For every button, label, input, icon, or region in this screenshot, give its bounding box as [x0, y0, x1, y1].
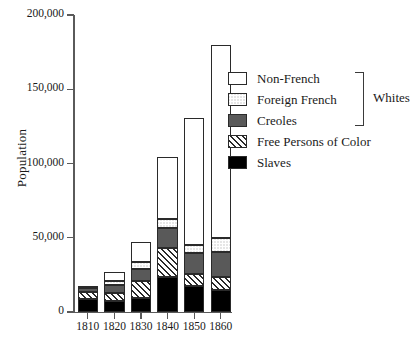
y-axis-tick-mark	[67, 163, 74, 164]
legend-item-creoles[interactable]: Creoles	[228, 110, 371, 131]
bar-segment-non-french	[157, 157, 178, 219]
bar-segment-free-persons-of-color	[131, 281, 152, 298]
bar-segment-slaves	[104, 301, 125, 312]
legend-item-label: Foreign French	[257, 92, 337, 108]
bar-segment-non-french	[184, 118, 205, 245]
bar-segment-creoles	[157, 228, 178, 248]
y-axis-tick-mark	[67, 14, 74, 15]
bar-segment-non-french	[104, 272, 125, 281]
legend-item-label: Creoles	[257, 113, 297, 129]
chart-legend: Non-FrenchForeign FrenchCreolesFree Pers…	[228, 68, 371, 173]
whites-group-label: Whites	[373, 90, 410, 106]
bar-segment-foreign-french	[211, 238, 232, 251]
legend-item-non-french[interactable]: Non-French	[228, 68, 371, 89]
bar-1810	[78, 286, 99, 312]
y-axis-tick-mark	[67, 89, 74, 90]
y-axis-tick-label: 0	[0, 304, 64, 316]
white-swatch-icon	[228, 72, 247, 85]
bar-segment-foreign-french	[184, 245, 205, 253]
y-axis-tick-label: 200,000	[0, 7, 64, 19]
bar-segment-slaves	[78, 299, 99, 312]
whites-bracket-icon	[355, 72, 364, 126]
bar-segment-free-persons-of-color	[157, 248, 178, 277]
bar-segment-free-persons-of-color	[211, 277, 232, 290]
bar-segment-free-persons-of-color	[104, 293, 125, 301]
bar-segment-non-french	[78, 286, 99, 288]
bar-segment-slaves	[131, 298, 152, 312]
bar-segment-creoles	[78, 288, 99, 292]
bar-segment-foreign-french	[157, 219, 178, 228]
bar-segment-creoles	[211, 252, 232, 277]
y-axis-tick-mark	[67, 237, 74, 238]
bar-segment-creoles	[131, 269, 152, 281]
bar-segment-foreign-french	[104, 281, 125, 285]
x-axis-tick-mark	[167, 312, 168, 319]
x-axis-tick-label: 1860	[201, 320, 241, 332]
y-axis-tick-label: 100,000	[0, 156, 64, 168]
bar-segment-slaves	[157, 277, 178, 312]
bar-1830	[131, 242, 152, 312]
legend-rows: Non-FrenchForeign FrenchCreolesFree Pers…	[228, 68, 371, 173]
x-axis-tick-mark	[220, 312, 221, 319]
legend-item-label: Non-French	[257, 71, 320, 87]
x-axis-tick-mark	[194, 312, 195, 319]
bar-1850	[184, 118, 205, 312]
bar-segment-slaves	[211, 290, 232, 312]
bar-segment-non-french	[131, 242, 152, 261]
bar-segment-slaves	[184, 286, 205, 312]
legend-item-label: Free Persons of Color	[257, 134, 371, 150]
bar-segment-creoles	[184, 253, 205, 274]
bar-segment-creoles	[104, 285, 125, 293]
bar-segment-foreign-french	[131, 262, 152, 269]
x-axis-tick-mark	[87, 312, 88, 319]
x-axis-tick-mark	[140, 312, 141, 319]
bar-1840	[157, 157, 178, 312]
bar-segment-free-persons-of-color	[78, 292, 99, 299]
black-swatch-icon	[228, 156, 247, 169]
y-axis-tick-label: 50,000	[0, 230, 64, 242]
dotted-swatch-icon	[228, 93, 247, 106]
y-axis-tick-mark	[67, 311, 74, 312]
gray-swatch-icon	[228, 114, 247, 127]
legend-item-label: Slaves	[257, 155, 291, 171]
population-stacked-bar-chart: Population 050,000100,000150,000200,000 …	[0, 0, 410, 340]
legend-item-slaves[interactable]: Slaves	[228, 152, 371, 173]
bar-1820	[104, 272, 125, 312]
bar-segment-free-persons-of-color	[184, 274, 205, 286]
legend-item-foreign-french[interactable]: Foreign French	[228, 89, 371, 110]
x-axis-tick-mark	[114, 312, 115, 319]
legend-item-free-persons-of-color[interactable]: Free Persons of Color	[228, 131, 371, 152]
hatched-swatch-icon	[228, 135, 247, 148]
y-axis-tick-label: 150,000	[0, 81, 64, 93]
